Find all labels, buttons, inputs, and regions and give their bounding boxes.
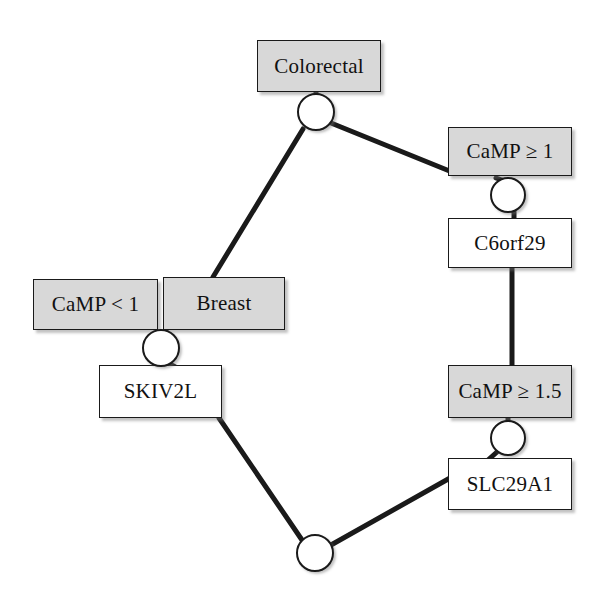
edge-slc29a1-bottom [331,478,450,545]
node-camp_ge_1[interactable]: CaMP ≥ 1 [448,127,572,176]
node-label-camp_ge_15: CaMP ≥ 1.5 [458,379,561,404]
node-label-breast: Breast [197,291,252,316]
node-slc29a1[interactable]: SLC29A1 [448,458,572,510]
node-label-camp_lt_1: CaMP < 1 [52,292,139,317]
junction-camp-ge-15[interactable] [490,420,526,456]
node-skiv2l[interactable]: SKIV2L [99,365,222,418]
node-breast[interactable]: Breast [163,277,285,330]
diagram-canvas: ColorectalCaMP ≥ 1C6orf29CaMP < 1BreastS… [0,0,600,602]
node-label-slc29a1: SLC29A1 [467,472,554,497]
edge-junction-breast [213,129,303,277]
junction-bottom[interactable] [296,534,334,572]
node-label-camp_ge_1: CaMP ≥ 1 [466,139,553,164]
junction-camp-ge-1[interactable] [490,177,526,213]
junction-breast[interactable] [142,329,180,367]
junction-colorectal[interactable] [297,93,335,131]
edge-junction-camp1 [331,123,452,172]
node-label-c6orf29: C6orf29 [474,231,545,256]
node-camp_lt_1[interactable]: CaMP < 1 [33,279,158,330]
edge-skiv2l-bottom [219,418,302,540]
node-label-skiv2l: SKIV2L [124,379,198,404]
node-c6orf29[interactable]: C6orf29 [448,218,572,268]
node-camp_ge_15[interactable]: CaMP ≥ 1.5 [448,365,572,418]
node-label-colorectal: Colorectal [274,54,363,79]
node-colorectal[interactable]: Colorectal [257,40,381,92]
